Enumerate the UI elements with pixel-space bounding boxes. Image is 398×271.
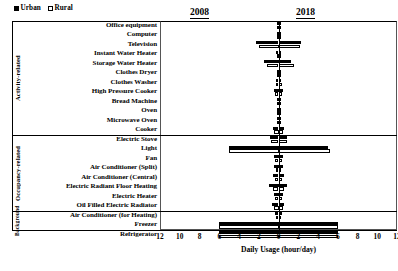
row-bars <box>160 126 397 136</box>
row-bars <box>160 40 397 50</box>
bar-urban-2008 <box>264 60 279 63</box>
bar-urban-2008 <box>270 136 279 139</box>
legend-swatch-rural-icon <box>48 6 53 11</box>
x-axis-ticks: 12108642024681012 <box>160 232 397 244</box>
legend-item-rural: Rural <box>48 4 73 12</box>
chart-row: Air Conditioner (for Heating) <box>0 211 398 221</box>
bar-rural-2018 <box>279 92 283 95</box>
row-bars <box>160 183 397 193</box>
bar-urban-2018 <box>279 165 284 168</box>
chart-row: Electric Heater <box>0 192 398 202</box>
bar-urban-2018 <box>279 79 282 82</box>
bar-rural-2018 <box>279 159 283 162</box>
row-bars <box>160 31 397 41</box>
chart-row: High Pressure Cooker <box>0 88 398 98</box>
bar-rural-2018 <box>279 216 282 219</box>
row-bars <box>160 211 397 221</box>
row-label-clothes-washer: Clothes Washer <box>111 78 157 88</box>
bar-rural-2018 <box>279 121 281 124</box>
chart-row: Instant Water Heater <box>0 50 398 60</box>
bar-rural-2018 <box>279 130 284 133</box>
row-label-air-conditioner-for-heating: Air Conditioner (for Heating) <box>70 211 157 221</box>
chart-row: Computer <box>0 31 398 41</box>
legend-swatch-urban-icon <box>14 6 19 11</box>
bar-rural-2018 <box>279 111 281 114</box>
chart-row: Clothes Dryer <box>0 69 398 79</box>
bar-urban-2008 <box>219 222 278 225</box>
chart-row: Fan <box>0 154 398 164</box>
bar-urban-2018 <box>279 222 338 225</box>
row-bars <box>160 192 397 202</box>
x-tick-label: 10 <box>176 232 183 242</box>
bar-urban-2008 <box>256 41 279 44</box>
row-label-fan: Fan <box>145 154 157 164</box>
bar-urban-2018 <box>279 212 283 215</box>
row-label-high-pressure-cooker: High Pressure Cooker <box>92 87 157 97</box>
bar-rural-2018 <box>279 73 282 76</box>
bar-urban-2018 <box>279 70 282 73</box>
row-label-electric-radiant-floor-heating: Electric Radiant Floor Heating <box>66 182 157 192</box>
bar-urban-2018 <box>279 108 281 111</box>
x-tick-label: 2 <box>296 232 300 242</box>
bar-rural-2008 <box>229 149 278 152</box>
x-tick-label: 8 <box>356 232 360 242</box>
bar-rural-2018 <box>279 225 338 228</box>
bar-rural-2018 <box>279 102 281 105</box>
legend-label-rural: Rural <box>54 4 72 12</box>
header-year-left: 2008 <box>190 7 209 19</box>
x-tick-label: 10 <box>374 232 381 242</box>
row-bars <box>160 135 397 145</box>
x-axis-title: Daily Usage (hour/day) <box>160 245 397 254</box>
row-label-electric-stove: Electric Stove <box>116 135 157 145</box>
bar-urban-2008 <box>229 146 278 149</box>
bar-rural-2018 <box>279 45 301 48</box>
row-label-air-conditioner-central: Air Conditioner (Central) <box>81 173 157 183</box>
bar-rural-2008 <box>271 140 279 143</box>
bar-rural-2018 <box>279 64 295 67</box>
bar-urban-2018 <box>279 32 282 35</box>
chart-row: Television <box>0 40 398 50</box>
row-bars <box>160 78 397 88</box>
row-bars <box>160 21 397 31</box>
x-tick-label: 4 <box>316 232 320 242</box>
x-tick-label: 0 <box>277 232 281 242</box>
bar-rural-2018 <box>279 168 282 171</box>
row-bars <box>160 164 397 174</box>
row-bars <box>160 154 397 164</box>
bar-urban-2018 <box>279 174 285 177</box>
row-label-oven: Oven <box>141 106 157 116</box>
bar-urban-2018 <box>279 60 292 63</box>
row-label-light: Light <box>141 144 157 154</box>
row-bars <box>160 221 397 231</box>
chart-row: Light <box>0 145 398 155</box>
row-label-television: Television <box>128 40 157 50</box>
bar-urban-2018 <box>279 184 288 187</box>
legend-label-urban: Urban <box>21 4 41 12</box>
row-label-instant-water-heater: Instant Water Heater <box>94 49 157 59</box>
row-label-electric-heater: Electric Heater <box>112 192 157 202</box>
chart-row: Air Conditioner (Split) <box>0 164 398 174</box>
chart-row: Bread Machine <box>0 97 398 107</box>
row-label-storage-water-heater: Storage Water Heater <box>93 59 157 69</box>
row-label-air-conditioner-split: Air Conditioner (Split) <box>90 163 157 173</box>
bar-rural-2018 <box>279 178 283 181</box>
bar-urban-2008 <box>269 184 279 187</box>
row-label-office-equipment: Office equipment <box>106 21 157 31</box>
row-bars <box>160 202 397 212</box>
row-bars <box>160 107 397 117</box>
bar-rural-2018 <box>279 149 330 152</box>
chart-row: Storage Water Heater <box>0 59 398 69</box>
butterfly-bar-chart-figure: Urban Rural 2008 2018 Activity-related O… <box>0 0 398 271</box>
bar-rural-2018 <box>279 26 281 29</box>
bar-urban-2018 <box>279 136 288 139</box>
chart-row: Oven <box>0 107 398 117</box>
x-tick-label: 2 <box>257 232 261 242</box>
bar-urban-2018 <box>279 89 284 92</box>
bar-urban-2018 <box>279 22 281 25</box>
chart-row: Electric Radiant Floor Heating <box>0 183 398 193</box>
bar-rural-2018 <box>279 140 288 143</box>
chart-row: Cooker <box>0 126 398 136</box>
bar-rural-2018 <box>279 83 283 86</box>
row-bars <box>160 116 397 126</box>
bar-urban-2018 <box>279 41 302 44</box>
